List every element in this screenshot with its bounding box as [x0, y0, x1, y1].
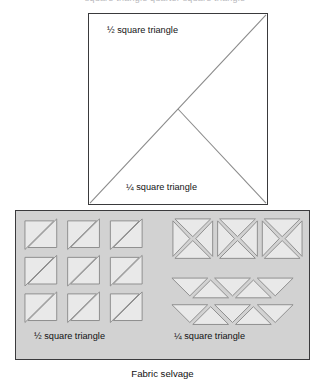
half-square-block: [110, 255, 142, 286]
label-quarter-square-triangle-bottom: ¼ square triangle: [126, 182, 197, 192]
half-square-block: [68, 255, 100, 286]
half-square-block: [25, 255, 57, 286]
unit-square-diagram: ½ square triangle ¼ square triangle: [88, 13, 268, 205]
quarter-square-triangle-group: [172, 219, 302, 325]
label-half-square-triangle-top: ½ square triangle: [107, 25, 178, 35]
half-square-block: [25, 219, 57, 250]
half-square-block: [110, 219, 142, 250]
top-clipped-caption: square triangle quarter square triangle: [50, 0, 280, 3]
unit-square-diagonals: [89, 14, 267, 204]
quarter-square-block: [218, 219, 258, 258]
half-square-block: [25, 292, 57, 323]
half-square-block: [110, 292, 142, 323]
fabric-selvage-caption: Fabric selvage: [0, 368, 325, 379]
label-half-square-triangle-panel: ½ square triangle: [34, 331, 105, 341]
label-quarter-square-triangle-panel: ¼ square triangle: [174, 331, 245, 341]
triangle-strip-row: [172, 278, 293, 298]
half-square-block: [68, 219, 100, 250]
triangle-strip-row: [172, 305, 293, 325]
quarter-square-block: [262, 219, 302, 258]
fabric-panel: ½ square triangle ¼ square triangle: [15, 210, 310, 360]
half-square-triangle-group: [25, 219, 142, 323]
half-square-block: [68, 292, 100, 323]
quarter-square-block: [173, 219, 213, 258]
